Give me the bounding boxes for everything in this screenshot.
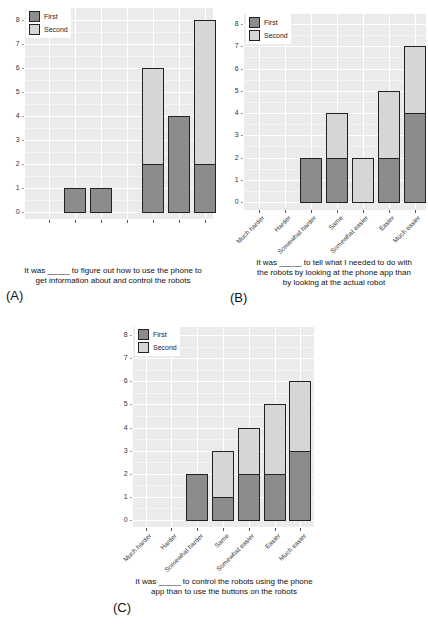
legend-item-second: Second xyxy=(138,341,177,354)
y-tick-label: 1 - xyxy=(118,493,132,500)
bar-segment-second xyxy=(238,428,260,475)
gridline xyxy=(146,327,147,527)
caption-line: app than to use the buttons on the robot… xyxy=(118,587,330,597)
gridline xyxy=(171,327,172,527)
legend-swatch-second xyxy=(138,342,149,353)
chart-c: 0 -1 -2 -3 -4 -5 -6 -7 -8 - Much harderH… xyxy=(0,0,428,624)
y-tick-label: 2 - xyxy=(118,470,132,477)
caption-line: It was _____ to control the robots using… xyxy=(118,577,330,587)
x-tick xyxy=(223,528,224,531)
y-tick-label: 0 - xyxy=(118,516,132,523)
bar-segment-first xyxy=(186,474,208,521)
legend-swatch-first xyxy=(138,329,149,340)
bar-segment-second xyxy=(264,404,286,474)
bar-segment-first xyxy=(238,474,260,521)
x-tick-label: Same xyxy=(213,532,230,549)
x-tick xyxy=(300,528,301,531)
chart-c-caption: It was _____ to control the robots using… xyxy=(118,577,330,597)
x-tick-label: Much harder xyxy=(122,532,153,563)
chart-c-legend: First Second xyxy=(135,326,180,356)
y-tick-label: 5 - xyxy=(118,400,132,407)
y-tick-label: 7 - xyxy=(118,354,132,361)
bar-segment-first xyxy=(212,497,234,521)
x-tick xyxy=(197,528,198,531)
panel-label-c: (C) xyxy=(113,600,131,615)
x-tick xyxy=(146,528,147,531)
x-tick-label: Harder xyxy=(159,532,178,551)
y-tick-label: 3 - xyxy=(118,447,132,454)
bar-segment-second xyxy=(212,451,234,498)
bar-segment-second xyxy=(289,381,311,451)
legend-label-first: First xyxy=(153,331,167,338)
legend-label-second: Second xyxy=(153,344,177,351)
x-tick-label: Easier xyxy=(263,532,281,550)
legend-item-first: First xyxy=(138,328,177,341)
y-tick-label: 4 - xyxy=(118,424,132,431)
bar-segment-first xyxy=(289,451,311,521)
y-tick-label: 8 - xyxy=(118,331,132,338)
x-tick xyxy=(275,528,276,531)
y-tick-label: 6 - xyxy=(118,377,132,384)
chart-c-plot-panel xyxy=(133,327,314,527)
x-tick xyxy=(249,528,250,531)
bar-segment-first xyxy=(264,474,286,521)
x-tick xyxy=(171,528,172,531)
